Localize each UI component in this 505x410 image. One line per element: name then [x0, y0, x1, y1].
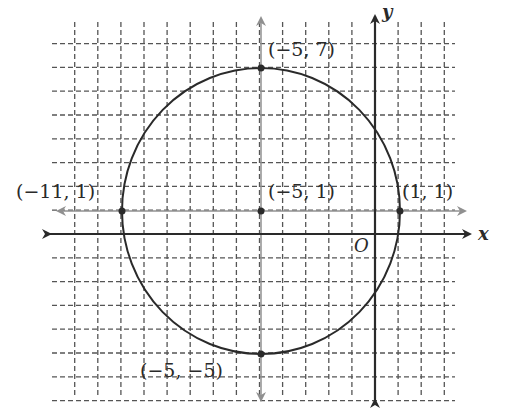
coordinate-plane: (−5, 7) (−11, 1) (−5, 1) (1, 1) (−5, −5)… — [0, 0, 505, 410]
y-axis-label: y — [381, 1, 394, 22]
origin-label: O — [354, 235, 369, 256]
point-bottom — [258, 351, 265, 358]
point-top — [258, 65, 265, 72]
point-center — [258, 208, 265, 215]
label-right-point: (1, 1) — [402, 180, 453, 202]
point-left — [119, 208, 126, 215]
x-axis-label: x — [477, 223, 489, 244]
label-center-point: (−5, 1) — [268, 180, 335, 202]
label-left-point: (−11, 1) — [16, 180, 95, 202]
point-right — [397, 208, 404, 215]
label-top-point: (−5, 7) — [268, 38, 335, 60]
label-bottom-point: (−5, −5) — [140, 359, 223, 381]
